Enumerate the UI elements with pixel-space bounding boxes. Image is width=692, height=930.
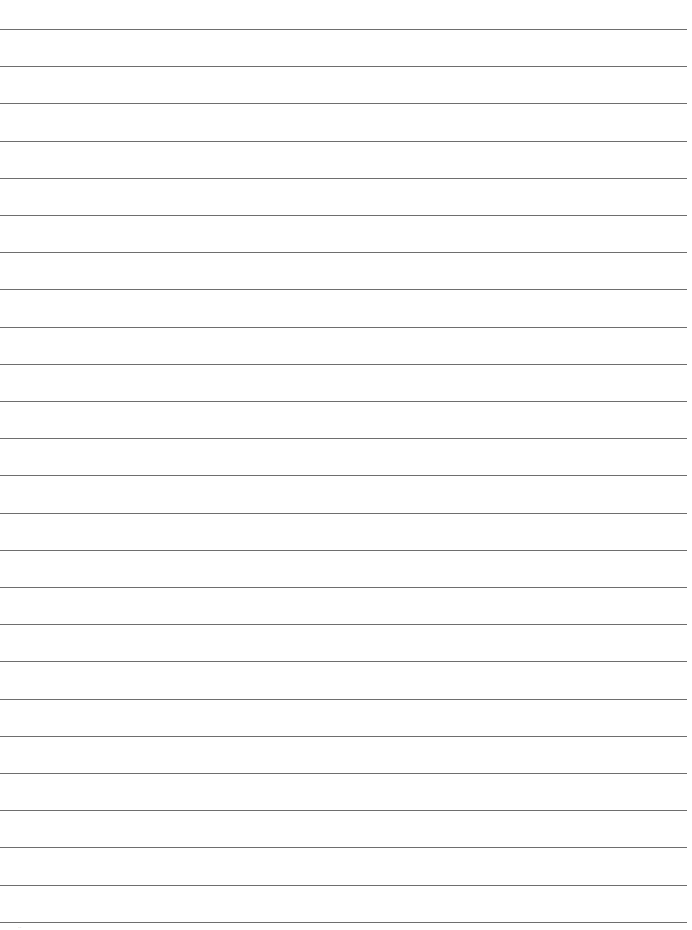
ruled-line: [0, 661, 687, 662]
ruled-line: [0, 141, 687, 142]
ruled-line: [0, 178, 687, 179]
ruled-line: [0, 810, 687, 811]
ruled-line: [0, 475, 687, 476]
corner-mark: ··: [18, 924, 21, 930]
ruled-line: [0, 922, 687, 923]
ruled-line: [0, 438, 687, 439]
ruled-line: [0, 587, 687, 588]
ruled-line: [0, 289, 687, 290]
ruled-line: [0, 624, 687, 625]
ruled-line: [0, 252, 687, 253]
ruled-line: [0, 885, 687, 886]
ruled-line: [0, 327, 687, 328]
ruled-line: [0, 736, 687, 737]
ruled-line: [0, 29, 687, 30]
ruled-line: [0, 699, 687, 700]
ruled-line: [0, 773, 687, 774]
ruled-line: [0, 513, 687, 514]
ruled-line: [0, 401, 687, 402]
ruled-line: [0, 550, 687, 551]
ruled-line: [0, 215, 687, 216]
ruled-line: [0, 66, 687, 67]
ruled-line: [0, 847, 687, 848]
ruled-line: [0, 364, 687, 365]
ruled-line: [0, 103, 687, 104]
lined-paper-page: [0, 0, 692, 930]
